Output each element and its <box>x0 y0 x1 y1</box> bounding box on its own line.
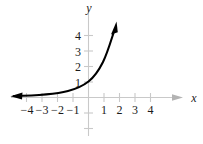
curve-left-arrow-icon <box>11 92 23 99</box>
x-tick-label-minus4: −4 <box>21 103 34 117</box>
x-tick-label-4: 4 <box>148 103 154 117</box>
x-axis-arrow-icon <box>172 94 183 100</box>
y-axis-label: y <box>85 1 92 15</box>
coordinate-plane: −4 −3 −2 −1 1 2 3 4 1 2 3 4 y x <box>0 0 203 144</box>
exponential-curve <box>14 33 114 96</box>
y-tick-label-2: 2 <box>75 60 81 74</box>
y-tick-label-1: 1 <box>75 76 81 90</box>
x-tick-label-minus1: −1 <box>67 103 80 117</box>
x-axis-label: x <box>190 91 197 105</box>
x-tick-label-2: 2 <box>117 103 123 117</box>
x-tick-label-minus3: −3 <box>36 103 49 117</box>
x-tick-label-3: 3 <box>132 103 138 117</box>
y-tick-label-3: 3 <box>75 45 81 59</box>
graph-figure: −4 −3 −2 −1 1 2 3 4 1 2 3 4 y x <box>0 0 203 144</box>
curve-right-arrow-icon <box>111 22 118 35</box>
x-tick-label-minus2: −2 <box>51 103 64 117</box>
y-tick-label-4: 4 <box>75 29 81 43</box>
x-tick-label-1: 1 <box>101 103 107 117</box>
